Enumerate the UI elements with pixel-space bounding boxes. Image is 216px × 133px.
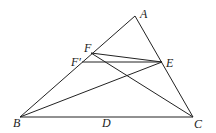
label-C: C xyxy=(194,117,203,131)
segment-AC xyxy=(135,16,193,117)
segment-FE xyxy=(91,53,162,62)
segment-FC xyxy=(91,53,193,117)
label-A: A xyxy=(139,7,148,21)
label-B: B xyxy=(13,116,21,130)
label-F-prime: F′ xyxy=(70,55,81,69)
label-E: E xyxy=(165,56,174,70)
label-D: D xyxy=(101,116,111,130)
label-F: F xyxy=(83,41,92,55)
geometry-diagram: A B C D E F F′ xyxy=(0,0,216,133)
diagram-svg: A B C D E F F′ xyxy=(0,0,216,133)
segment-BE xyxy=(20,62,162,117)
